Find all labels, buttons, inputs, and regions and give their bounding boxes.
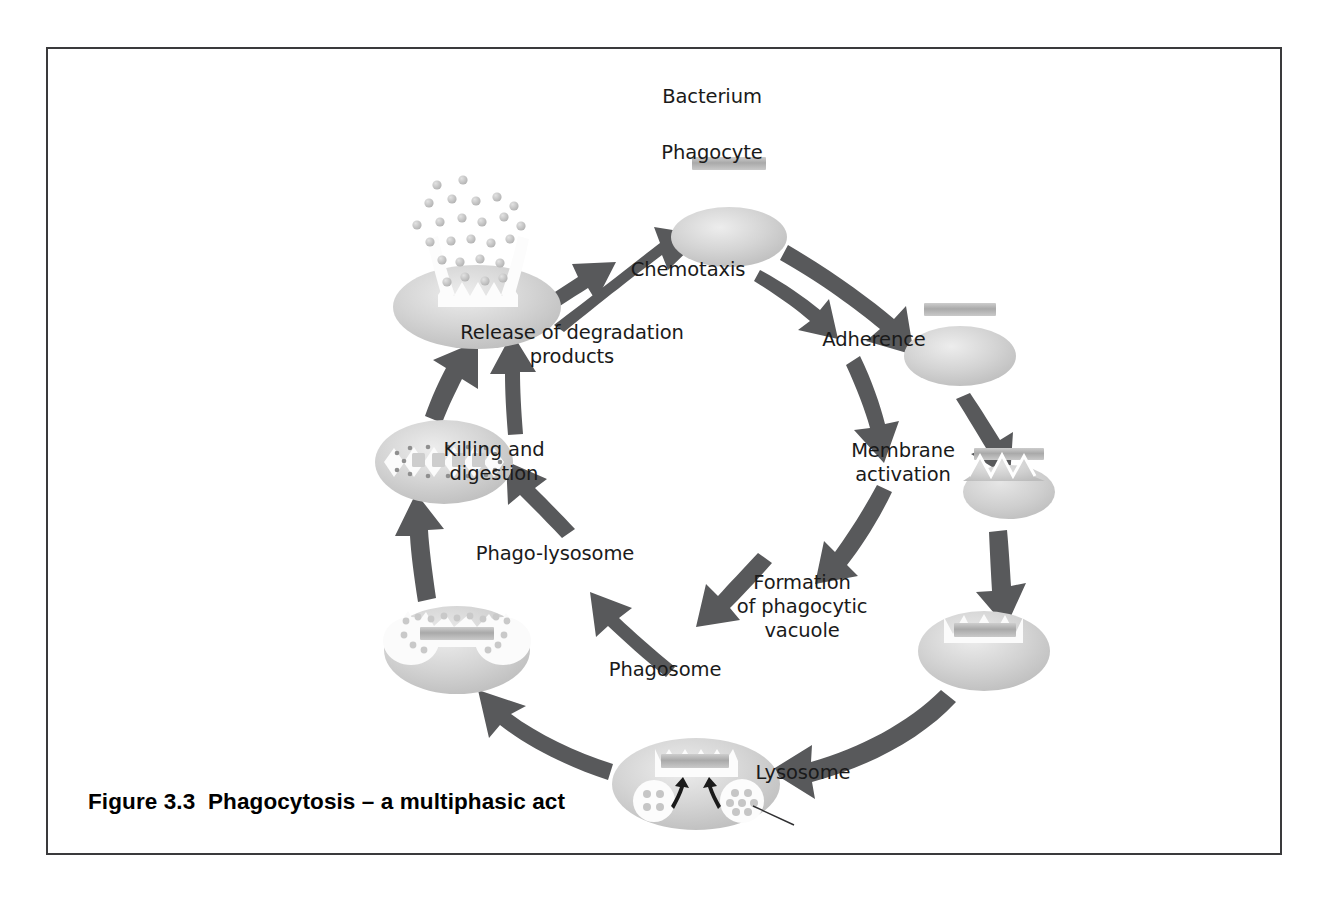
label-adherence: Adherence (814, 328, 934, 352)
label-phagocyte: Phagocyte (652, 141, 772, 165)
membrane-activation-cell (963, 448, 1055, 519)
label-release-of-degradation-products: Release of degradation products (452, 321, 692, 369)
arrow-phagolysosome-to-digestion (395, 493, 444, 602)
figure-caption: Figure 3.3 Phagocytosis – a multiphasic … (88, 789, 565, 815)
label-chemotaxis: Chemotaxis (626, 258, 750, 282)
phago-lysosome-cell (383, 606, 531, 694)
label-killing-and-digestion: Killing and digestion (430, 438, 558, 486)
arrow-inner-vacuole (815, 485, 892, 584)
vacuole-formation-cell (918, 611, 1050, 691)
label-bacterium: Bacterium (652, 85, 772, 109)
label-lysosome: Lysosome (742, 761, 864, 785)
arrow-phagosome-to-phagolysosome (478, 690, 613, 780)
figure-frame: Bacterium Phagocyte Chemotaxis Adherence… (46, 47, 1282, 855)
label-membrane-activation: Membrane activation (838, 439, 968, 487)
phagocytosis-cycle-diagram (48, 49, 1280, 853)
label-phagosome: Phagosome (600, 658, 730, 682)
label-formation-of-phagocytic-vacuole: Formation of phagocytic vacuole (728, 571, 876, 642)
label-phago-lysosome: Phago-lysosome (469, 542, 641, 566)
